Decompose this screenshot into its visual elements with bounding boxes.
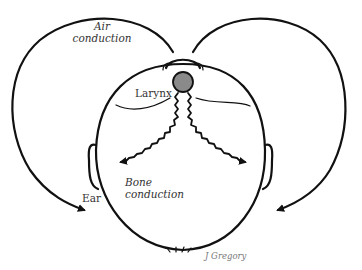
air-conduction-line1: Air	[72, 20, 132, 32]
bone-conduction-line1: Bone	[125, 176, 184, 188]
bone-conduction-label: Bone conduction	[125, 176, 184, 200]
right-shoulder-line	[196, 98, 250, 106]
sound-conduction-diagram: Air conduction Larynx Ear Bone conductio…	[0, 0, 362, 270]
larynx-circle	[173, 72, 193, 92]
credit-label: J Gregory	[205, 250, 246, 262]
left-bone-conduction-wave	[121, 93, 178, 162]
larynx-label: Larynx	[135, 87, 172, 99]
ear-label: Ear	[82, 192, 101, 204]
air-conduction-line2: conduction	[72, 32, 132, 44]
bone-conduction-line2: conduction	[125, 188, 184, 200]
diagram-canvas	[0, 0, 362, 270]
left-shoulder-line	[116, 98, 170, 109]
air-conduction-label: Air conduction	[72, 20, 132, 44]
